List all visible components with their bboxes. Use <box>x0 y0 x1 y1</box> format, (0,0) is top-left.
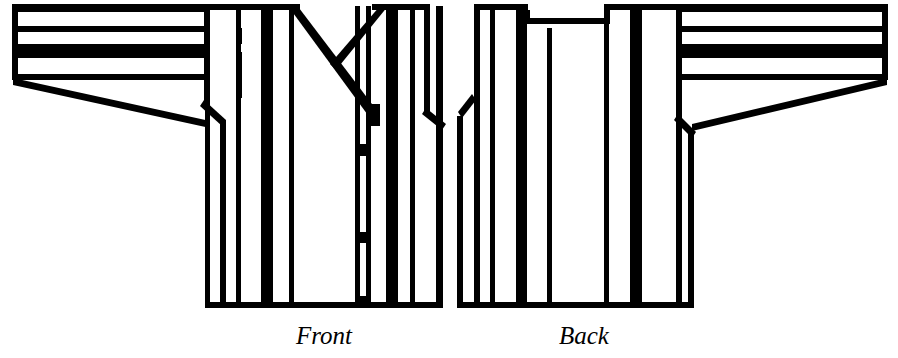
front-stripe-2 <box>236 6 241 308</box>
sleeve-stripe-thin-3 <box>12 74 206 80</box>
front-shoulder-line <box>205 4 300 10</box>
back-sleeve-stripe-thin-3 <box>680 74 888 80</box>
back-neck-step-right <box>604 8 610 24</box>
back-shoulder-left <box>474 4 528 10</box>
placket-edge-right <box>366 6 371 308</box>
back-left-side-seam <box>457 116 463 308</box>
front-stripe-1 <box>205 6 210 308</box>
front-right-upper-seam <box>424 6 430 112</box>
figure-page: Front Back <box>0 0 898 358</box>
back-stripe-thick-left <box>516 6 527 308</box>
placket-tie-2 <box>356 232 371 243</box>
back-sleeve-stripe-thin-2 <box>680 26 886 32</box>
placket-edge-left <box>355 6 360 308</box>
placket-tie-1 <box>356 144 371 156</box>
front-stripe-3 <box>289 6 294 308</box>
back-neck-bottom <box>524 18 610 24</box>
back-right-side-seam <box>688 130 694 308</box>
front-left-side-seam <box>220 120 226 308</box>
sleeve-cuff-edge <box>12 6 18 80</box>
back-stripe-thick-right <box>630 6 642 308</box>
back-right-upper-seam <box>676 6 682 118</box>
garment-technical-drawing <box>0 0 898 358</box>
front-left-sleeve-seam-ticks <box>238 28 242 98</box>
back-stripe-3 <box>547 28 552 308</box>
back-stripe-2 <box>490 6 495 308</box>
front-stripe-thick-right <box>386 6 398 308</box>
sleeve-stripe-thick <box>12 44 206 58</box>
back-stripe-4 <box>604 6 609 308</box>
back-sleeve-cuff-edge <box>882 6 888 80</box>
front-stripe-4 <box>410 6 415 308</box>
back-sleeve-stripe-thick <box>680 44 888 58</box>
sleeve-stripe-thin-2 <box>12 26 206 32</box>
front-hem-line <box>205 302 443 308</box>
front-stripe-thick-left <box>261 6 273 308</box>
back-stripe-1 <box>474 6 480 308</box>
seam-tick-1 <box>238 28 242 44</box>
back-sleeve-top-edge <box>660 4 888 10</box>
seam-tick-2 <box>238 52 242 98</box>
front-right-side-seam <box>437 124 443 308</box>
front-shoulder-line-right <box>372 4 430 10</box>
back-hem-line <box>457 302 694 308</box>
